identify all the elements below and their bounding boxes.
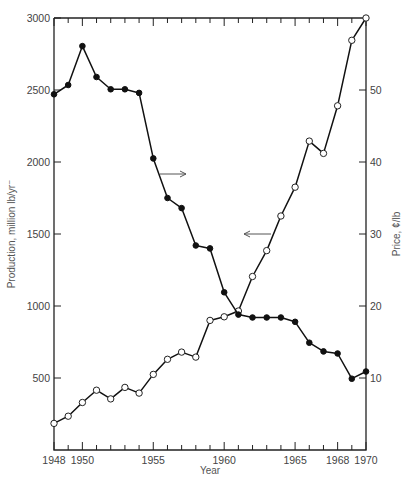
price-series (51, 43, 369, 381)
arrow-left-icon (244, 231, 271, 237)
price-point (363, 369, 369, 375)
production-point (79, 399, 85, 405)
x-tick-label: 1955 (142, 454, 166, 466)
production-point (178, 349, 184, 355)
right-y-tick-label: 50 (370, 84, 382, 96)
price-point (264, 315, 270, 321)
right-y-tick-label: 40 (370, 156, 382, 168)
left-y-tick-label: 2000 (27, 156, 51, 168)
production-point (207, 317, 213, 323)
production-point (221, 314, 227, 320)
dual-axis-line-chart: 1948195019551960196519681970 50010001500… (0, 0, 409, 492)
price-point (221, 290, 227, 296)
price-point (307, 340, 313, 346)
production-point (93, 387, 99, 393)
production-point (150, 371, 156, 377)
left-y-tick-label: 1000 (27, 300, 51, 312)
price-point (349, 376, 355, 382)
price-point (278, 315, 284, 321)
price-point (122, 87, 128, 93)
left-y-tick-label: 1500 (27, 228, 51, 240)
x-axis-ticks: 1948195019551960196519681970 (42, 18, 378, 466)
left-y-tick-label: 500 (32, 372, 50, 384)
price-point (65, 82, 71, 88)
production-point (306, 138, 312, 144)
right-y-axis-title: Price, ¢/lb (391, 211, 402, 256)
production-point (51, 420, 57, 426)
left-y-tick-label: 2500 (27, 84, 51, 96)
x-tick-label: 1948 (42, 454, 66, 466)
production-point (108, 396, 114, 402)
production-point (249, 273, 255, 279)
production-point (136, 390, 142, 396)
left-y-tick-label: 3000 (27, 12, 51, 24)
right-y-tick-label: 20 (370, 300, 382, 312)
x-tick-label: 1965 (283, 454, 307, 466)
price-point (108, 87, 114, 93)
price-point (179, 205, 185, 211)
price-point (136, 90, 142, 96)
price-point (51, 92, 57, 98)
price-point (236, 312, 242, 318)
x-tick-label: 1950 (71, 454, 95, 466)
production-point (122, 384, 128, 390)
arrow-right-icon (160, 171, 186, 177)
price-point (94, 74, 100, 80)
production-point (193, 354, 199, 360)
price-point (321, 349, 327, 355)
left-y-axis-title: Production, million lb/yr⁻ (6, 180, 17, 289)
price-point (165, 195, 171, 201)
price-point (207, 246, 213, 252)
production-point (164, 356, 170, 362)
price-point (80, 43, 86, 49)
price-point (250, 315, 256, 321)
production-point (349, 37, 355, 43)
production-point (264, 247, 270, 253)
right-y-tick-label: 10 (370, 372, 382, 384)
left-y-axis: 50010001500200025003000 (27, 12, 61, 384)
x-tick-label: 1970 (354, 454, 378, 466)
x-tick-label: 1968 (326, 454, 350, 466)
price-point (335, 351, 341, 357)
price-point (193, 243, 199, 249)
production-point (334, 103, 340, 109)
price-point (151, 156, 157, 162)
production-point (363, 15, 369, 21)
production-point (65, 413, 71, 419)
plot-frame (54, 18, 366, 450)
price-point (292, 319, 298, 325)
right-y-tick-label: 30 (370, 228, 382, 240)
production-point (278, 213, 284, 219)
right-y-axis: 1020304050 (359, 84, 382, 384)
production-point (292, 184, 298, 190)
production-point (320, 150, 326, 156)
x-axis-title: Year (200, 465, 221, 476)
